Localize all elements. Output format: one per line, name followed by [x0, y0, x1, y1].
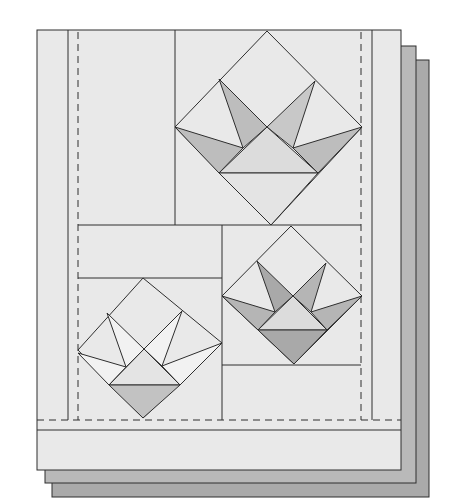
quilt-diagram: [0, 0, 454, 500]
